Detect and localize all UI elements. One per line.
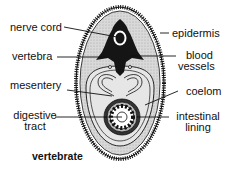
label-blood-vessels: blood vessels bbox=[178, 50, 215, 72]
label-blood-vessels-line2: vessels bbox=[178, 61, 215, 72]
label-intestinal-lining: intestinal lining bbox=[172, 111, 224, 133]
label-nerve-cord: nerve cord bbox=[10, 22, 62, 33]
label-intestinal-lining-line2: lining bbox=[172, 122, 224, 133]
label-epidermis: epidermis bbox=[172, 28, 220, 39]
label-mesentery: mesentery bbox=[10, 80, 61, 91]
label-coelom: coelom bbox=[186, 86, 221, 97]
label-vertebra: vertebra bbox=[12, 51, 52, 62]
label-digestive-tract-line2: tract bbox=[10, 121, 60, 132]
label-digestive-tract: digestive tract bbox=[10, 110, 60, 132]
diagram-title: vertebrate bbox=[32, 151, 83, 162]
